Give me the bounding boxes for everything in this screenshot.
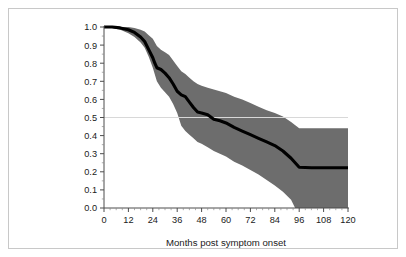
y-tick-label-0-3: 0.3: [84, 149, 97, 159]
x-tick-label-84: 84: [270, 215, 280, 225]
y-tick-label-0-6: 0.6: [84, 95, 97, 105]
x-tick-label-96: 96: [294, 215, 304, 225]
y-axis-ticks: [100, 27, 104, 208]
y-tick-label-0-8: 0.8: [84, 59, 97, 69]
y-tick-label-0-4: 0.4: [84, 131, 97, 141]
survival-plot: 01224364860728496108120 0.00.10.20.30.40…: [0, 0, 406, 257]
x-tick-label-120: 120: [340, 215, 355, 225]
y-tick-label-0-5: 0.5: [84, 113, 97, 123]
x-axis-ticks: [104, 208, 348, 212]
y-tick-label-0-7: 0.7: [84, 77, 97, 87]
x-axis-tick-labels: 01224364860728496108120: [101, 215, 355, 225]
y-axis-tick-labels: 0.00.10.20.30.40.50.60.70.80.91.0: [84, 22, 97, 213]
x-tick-label-48: 48: [196, 215, 206, 225]
x-tick-label-0: 0: [101, 215, 106, 225]
y-tick-label-0: 0.0: [84, 203, 97, 213]
x-tick-label-60: 60: [221, 215, 231, 225]
x-tick-label-108: 108: [316, 215, 331, 225]
x-axis-title: Months post symptom onset: [166, 237, 286, 248]
y-tick-label-0-9: 0.9: [84, 41, 97, 51]
y-tick-label-0-2: 0.2: [84, 167, 97, 177]
y-tick-label-0-1: 0.1: [84, 185, 97, 195]
x-tick-label-36: 36: [172, 215, 182, 225]
x-tick-label-12: 12: [123, 215, 133, 225]
x-tick-label-72: 72: [245, 215, 255, 225]
y-tick-label-1: 1.0: [84, 22, 97, 32]
chart-figure: 01224364860728496108120 0.00.10.20.30.40…: [0, 0, 406, 257]
x-tick-label-24: 24: [148, 215, 158, 225]
